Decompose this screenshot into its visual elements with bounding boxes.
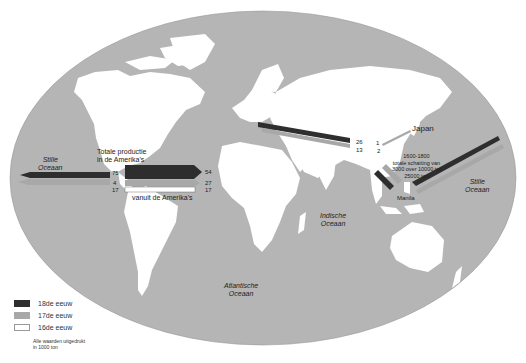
legend: 18de eeuw 17de eeuw 16de eeuw <box>14 297 72 333</box>
value-japan-18c: 1 <box>376 140 379 146</box>
legend-note: Alle waarden uitgedrukt in 1000 ton <box>33 338 85 350</box>
value-europe-asia-17c: 13 <box>356 147 363 153</box>
label-japan: Japan <box>412 125 434 133</box>
legend-label-16c: 16de eeuw <box>38 324 72 331</box>
legend-item-18c: 18de eeuw <box>14 297 72 309</box>
ocean-label-pacific-west: Stille Oceaan <box>38 156 63 172</box>
legend-item-16c: 16de eeuw <box>14 321 72 333</box>
label-manila: Manila <box>397 194 415 202</box>
value-japan-17c: 2 <box>377 148 380 154</box>
ocean-label-indian: Indische Oceaan <box>320 212 346 228</box>
value-americas-west-17c: 4 <box>113 180 116 186</box>
ocean-label-pacific-east: Stille Oceaan <box>465 178 490 194</box>
ocean-label-atlantic: Atlantische Oceaan <box>224 282 258 298</box>
legend-label-17c: 17de eeuw <box>38 312 72 319</box>
legend-swatch-17c <box>14 312 30 319</box>
label-total-production: Totale productie in de Amerika's <box>97 148 146 164</box>
flow-americas-to-europe <box>125 165 202 192</box>
value-americas-west-18c: 75 <box>112 170 119 176</box>
value-americas-west-16c: 17 <box>112 187 119 193</box>
value-americas-east-17c: 27 <box>205 180 212 186</box>
legend-swatch-16c <box>14 324 30 331</box>
legend-swatch-18c <box>14 300 30 307</box>
legend-item-17c: 17de eeuw <box>14 309 72 321</box>
value-americas-east-18c: 54 <box>205 169 212 175</box>
legend-label-18c: 18de eeuw <box>38 300 72 307</box>
label-estimate: 1600-1800 totale schatting van 3000 over… <box>392 153 441 179</box>
world-map <box>0 0 526 363</box>
label-from-americas: vanuit de Amerika's <box>132 194 192 202</box>
value-europe-asia-18c: 26 <box>356 139 363 145</box>
value-americas-east-16c: 17 <box>205 187 212 193</box>
